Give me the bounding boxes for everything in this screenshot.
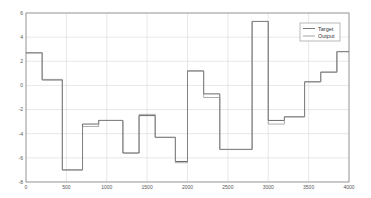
x-tick-label: 500 [62, 184, 71, 190]
x-tick-label: 1000 [101, 184, 112, 190]
x-tick-label: 3000 [263, 184, 274, 190]
x-tick-label: 4000 [343, 184, 354, 190]
legend-label-target: Target [318, 26, 334, 32]
y-axis-ticks: 6420-2-4-6-8 [19, 10, 24, 185]
step-response-chart: 6420-2-4-6-8 050010001500200025003000350… [0, 0, 371, 198]
x-tick-label: 2000 [182, 184, 193, 190]
x-axis-ticks: 05001000150020002500300035004000 [25, 184, 355, 190]
y-tick-label: -4 [19, 131, 24, 137]
x-tick-label: 0 [25, 184, 28, 190]
x-tick-label: 2500 [222, 184, 233, 190]
y-tick-label: 6 [20, 10, 23, 16]
y-tick-label: -6 [19, 155, 24, 161]
y-tick-label: 4 [20, 34, 23, 40]
y-tick-label: -8 [19, 179, 24, 185]
y-tick-label: 2 [20, 58, 23, 64]
y-tick-label: -2 [19, 106, 24, 112]
y-tick-label: 0 [20, 82, 23, 88]
legend-label-output: Output [318, 33, 335, 39]
x-tick-label: 1500 [142, 184, 153, 190]
legend: Target Output [300, 23, 340, 41]
x-tick-label: 3500 [303, 184, 314, 190]
